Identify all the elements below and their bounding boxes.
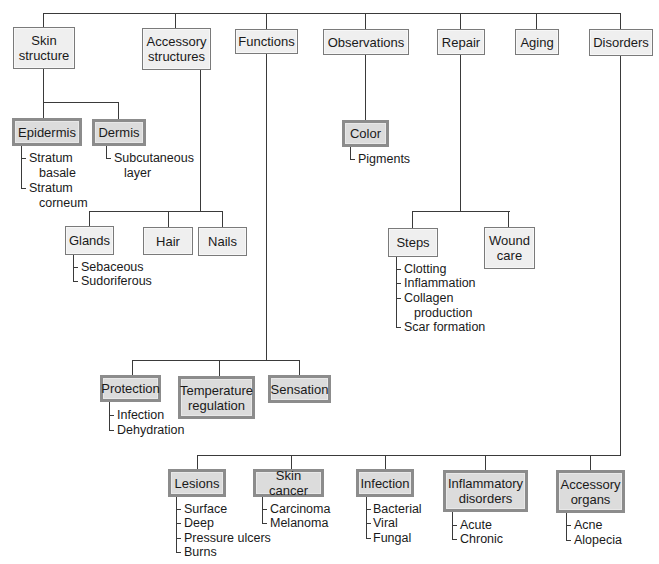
item-clotting: Clotting xyxy=(404,262,446,277)
item-chronic: Chronic xyxy=(460,532,503,547)
connector-line xyxy=(396,256,397,328)
item-text: layer xyxy=(114,166,151,180)
connector-line xyxy=(350,159,355,160)
item-text: corneum xyxy=(29,196,88,210)
node-label: disorders xyxy=(459,491,512,506)
node-label: Accessory xyxy=(561,477,621,492)
connector-line xyxy=(266,13,267,29)
connector-line xyxy=(566,540,571,541)
connector-line xyxy=(365,13,366,29)
item-carcinoma: Carcinoma xyxy=(270,502,330,517)
connector-line xyxy=(350,146,351,159)
connector-line xyxy=(366,509,371,510)
node-observations: Observations xyxy=(323,29,409,55)
node-label: Functions xyxy=(238,34,294,49)
item-fungal: Fungal xyxy=(373,531,411,546)
item-collagen-production: Collagen production xyxy=(404,291,472,321)
node-label: Aging xyxy=(520,35,553,50)
connector-line xyxy=(21,158,26,159)
node-label: Color xyxy=(350,126,381,141)
connector-line xyxy=(485,455,486,470)
node-label: Steps xyxy=(396,235,429,250)
node-label: Repair xyxy=(442,35,480,50)
connector-line xyxy=(168,211,169,227)
item-pigments: Pigments xyxy=(358,152,410,167)
connector-line xyxy=(219,360,220,376)
node-color: Color xyxy=(342,120,389,147)
connector-line xyxy=(200,69,201,211)
connector-line xyxy=(176,552,181,553)
connector-line xyxy=(222,211,223,227)
node-aging: Aging xyxy=(515,29,559,55)
node-label: Skin cancer xyxy=(256,468,321,498)
item-viral: Viral xyxy=(373,516,398,531)
node-label: Epidermis xyxy=(18,125,76,140)
node-label: Nails xyxy=(208,234,237,249)
node-label: Protection xyxy=(101,381,160,396)
connector-line xyxy=(21,188,26,189)
item-sebaceous: Sebaceous xyxy=(81,260,144,275)
node-skin-structure: Skinstructure xyxy=(13,27,75,69)
connector-line xyxy=(452,539,457,540)
connector-line xyxy=(132,360,300,361)
connector-line xyxy=(536,13,537,29)
item-burns: Burns xyxy=(184,545,217,560)
item-acute: Acute xyxy=(460,518,492,533)
node-label: Infection xyxy=(360,476,409,491)
connector-line xyxy=(366,523,371,524)
item-melanoma: Melanoma xyxy=(270,516,328,531)
connector-line xyxy=(109,415,114,416)
connector-line xyxy=(396,327,401,328)
node-label: Dermis xyxy=(98,125,139,140)
node-label: Inflammatory xyxy=(448,476,523,491)
item-subcutaneous-layer: Subcutaneous layer xyxy=(114,151,194,181)
item-text: basale xyxy=(29,166,76,180)
connector-line xyxy=(43,13,44,27)
node-glands: Glands xyxy=(65,226,114,255)
node-hair: Hair xyxy=(143,227,193,255)
node-label: Skin xyxy=(31,33,56,48)
connector-line xyxy=(89,211,90,226)
node-disorders: Disorders xyxy=(589,29,653,56)
node-label: care xyxy=(497,248,522,263)
connector-line xyxy=(299,360,300,375)
node-label: Glands xyxy=(69,233,110,248)
item-stratum-corneum: Stratum corneum xyxy=(29,181,88,211)
item-scar-formation: Scar formation xyxy=(404,320,485,335)
node-accessory-structures: Accessorystructures xyxy=(142,28,211,70)
connector-line xyxy=(89,211,222,212)
connector-line xyxy=(106,145,107,159)
connector-line xyxy=(197,455,198,469)
connector-line xyxy=(566,525,571,526)
connector-line xyxy=(262,523,267,524)
item-alopecia: Alopecia xyxy=(574,533,622,548)
connector-line xyxy=(365,54,366,120)
node-label: Sensation xyxy=(271,382,329,397)
connector-line xyxy=(460,54,461,211)
connector-line xyxy=(109,430,114,431)
connector-line xyxy=(43,68,44,103)
node-nails: Nails xyxy=(198,227,247,256)
connector-line xyxy=(176,509,181,510)
item-text: production xyxy=(404,306,472,320)
item-stratum-basale: Stratum basale xyxy=(29,151,76,181)
node-dermis: Dermis xyxy=(92,119,146,146)
node-label: regulation xyxy=(188,398,245,413)
connector-line xyxy=(590,455,591,470)
item-text: Subcutaneous xyxy=(114,151,194,165)
connector-line xyxy=(412,211,510,212)
item-surface: Surface xyxy=(184,502,227,517)
item-inflammation: Inflammation xyxy=(404,276,476,291)
node-label: Observations xyxy=(328,35,405,50)
connector-line xyxy=(132,360,133,375)
connector-line xyxy=(385,455,386,469)
connector-line xyxy=(266,53,267,361)
node-label: structures xyxy=(148,49,205,64)
connector-line xyxy=(73,267,78,268)
node-lesions: Lesions xyxy=(168,469,226,497)
node-protection: Protection xyxy=(100,375,161,402)
connector-line xyxy=(21,145,22,188)
node-functions: Functions xyxy=(235,29,298,54)
node-inflammatory-disorders: Inflammatorydisorders xyxy=(443,470,528,512)
node-label: organs xyxy=(571,492,611,507)
